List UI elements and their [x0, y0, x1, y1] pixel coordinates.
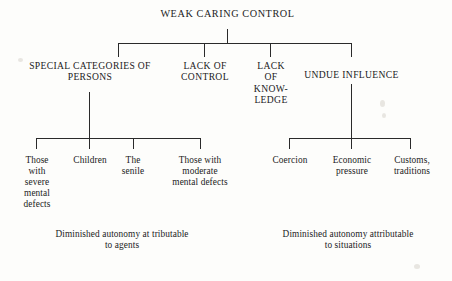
right-subtree-stem [351, 84, 352, 139]
node-undue-influence: UNDUE INFLUENCE [304, 69, 399, 80]
scan-speck [380, 100, 385, 107]
left-drop-children [89, 138, 90, 149]
right-drop-economic-pressure [351, 138, 352, 149]
left-subtree-bus [36, 138, 201, 139]
left-subtree-stem [89, 92, 90, 139]
node-lack-of-control: LACK OF CONTROL [174, 60, 236, 83]
leaf-children: Children [65, 155, 115, 166]
scan-speck [382, 113, 386, 118]
level1-bus [118, 43, 352, 44]
leaf-those-with-severe-mental-defects: Those with severe mental defects [14, 155, 60, 210]
scan-speck [414, 264, 420, 269]
right-drop-customs-traditions [410, 138, 411, 149]
leaf-customs-traditions: Customs, traditions [383, 155, 441, 177]
right-drop-coercion [289, 138, 290, 149]
leaf-the-senile: The senile [112, 155, 154, 177]
scan-speck [18, 58, 23, 62]
caption-diminished-autonomy-agents: Diminished autonomy at tributable to age… [22, 229, 222, 251]
node-special-categories-of-persons: SPECIAL CATEGORIES OF PERSONS [10, 60, 170, 83]
level1-drop-lack-of-knowledge [270, 43, 271, 57]
diagram-title: WEAK CARING CONTROL [120, 8, 335, 20]
leaf-coercion: Coercion [264, 155, 316, 166]
diagram-canvas: WEAK CARING CONTROL SPECIAL CATEGORIES O… [0, 0, 452, 281]
left-drop-moderate-defects [200, 138, 201, 149]
leaf-economic-pressure: Economic pressure [323, 155, 381, 177]
left-drop-severe-defects [36, 138, 37, 149]
leaf-those-with-moderate-mental-defects: Those with moderate mental defects [156, 155, 244, 188]
title-stem [227, 29, 228, 44]
node-lack-of-knowledge: LACK OF KNOW- LEDGE [245, 60, 297, 105]
level1-drop-special-categories [118, 43, 119, 57]
left-drop-senile [133, 138, 134, 149]
undue-influence-stem-upper [351, 50, 352, 57]
right-subtree-bus [289, 138, 411, 139]
level1-drop-lack-of-control [204, 43, 205, 57]
caption-diminished-autonomy-situations: Diminished autonomy attributable to situ… [250, 229, 446, 251]
